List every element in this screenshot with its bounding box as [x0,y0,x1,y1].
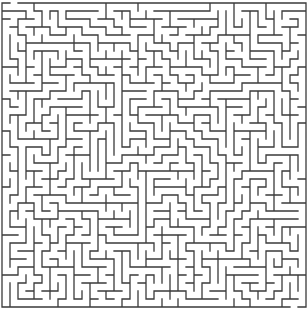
maze-board [0,0,308,310]
